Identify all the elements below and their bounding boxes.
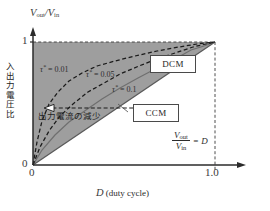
ccm-label-box: CCM bbox=[133, 104, 179, 122]
tau-0-05-label: τ* = 0.05 bbox=[86, 69, 114, 79]
y-axis-title-vout-sub: out bbox=[36, 11, 44, 18]
y-tick-label-zero: 0 bbox=[22, 158, 28, 169]
x-axis-arrowhead bbox=[237, 162, 246, 168]
x-tick-label-zero: 0 bbox=[29, 167, 35, 178]
y-axis-title-japanese: 入出力電圧比 bbox=[4, 62, 13, 119]
x-axis-title: D (duty cycle) bbox=[96, 188, 149, 199]
tau-0-1-label: τ* = 0.1 bbox=[112, 84, 136, 94]
x-axis-title-symbol: D bbox=[96, 187, 104, 198]
equation-denominator: Vin bbox=[172, 141, 190, 151]
x-tick-label-max: 1.0 bbox=[205, 167, 219, 178]
tau-0-01-value: 0.01 bbox=[54, 65, 68, 74]
dcm-label-box: DCM bbox=[150, 55, 196, 73]
equation-den-sub: in bbox=[181, 144, 186, 151]
equation-numerator: Vout bbox=[172, 130, 190, 141]
equation-rhs: = D bbox=[190, 136, 208, 146]
tau-0-01-label: τ* = 0.01 bbox=[40, 64, 68, 74]
tau-0-1-value: 0.1 bbox=[126, 85, 136, 94]
output-current-decrease-label: 出力電流の減少 bbox=[38, 112, 101, 121]
x-axis-title-note: (duty cycle) bbox=[106, 188, 149, 198]
equation-fraction: Vout Vin bbox=[172, 130, 190, 151]
chart-figure: Vout/Vin 入出力電圧比 1 0 0 1.0 D (duty cycle)… bbox=[0, 0, 270, 211]
y-axis-arrowhead bbox=[30, 27, 36, 36]
y-axis-title: Vout/Vin bbox=[30, 8, 59, 19]
ccm-equation: Vout Vin = D bbox=[172, 130, 208, 151]
tau-0-05-value: 0.05 bbox=[100, 70, 114, 79]
y-axis-title-vin-sub: in bbox=[54, 11, 59, 18]
equation-num-sub: out bbox=[180, 133, 188, 140]
y-tick-label-max: 1 bbox=[22, 35, 28, 46]
